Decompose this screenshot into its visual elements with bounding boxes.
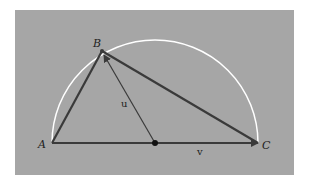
label-c: C [262, 139, 271, 152]
semicircle-triangle-diagram: A B C u v [0, 0, 311, 184]
label-a: A [37, 138, 46, 151]
center-point [152, 140, 158, 146]
label-v: v [196, 146, 203, 157]
label-u: u [121, 98, 128, 109]
diagram-background [15, 10, 294, 175]
label-b: B [92, 37, 101, 50]
